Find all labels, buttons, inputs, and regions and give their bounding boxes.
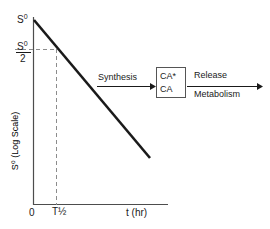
metabolism-label: Metabolism [194, 90, 240, 99]
y-tick-s0-half-superscript: 0 [24, 40, 28, 47]
ca-ground-label: CA [160, 85, 173, 94]
y-tick-s0-half-base: S [17, 41, 24, 52]
release-label: Release [194, 71, 227, 80]
synthesis-label: Synthesis [98, 73, 137, 82]
figure-vector-layer [0, 0, 270, 229]
x-tick-label-origin: 0 [29, 208, 35, 218]
y-axis-title: S⁰ (Log Scale) [10, 98, 20, 184]
x-tick-label-half-life: T½ [52, 207, 66, 217]
y-tick-s0-base: S [17, 14, 24, 25]
x-axis-title: t (hr) [126, 208, 147, 218]
ca-excited-label: CA* [160, 72, 176, 81]
y-tick-label-s0: S0 [17, 13, 28, 25]
y-tick-label-s0-half-numerator: S0 [17, 40, 28, 52]
y-tick-s0-superscript: 0 [24, 13, 28, 20]
figure-canvas: S0 S0 2 S⁰ (Log Scale) 0 T½ t (hr) Synth… [0, 0, 270, 229]
output-arrow-head [257, 83, 263, 90]
y-tick-label-s0-half-denominator: 2 [20, 54, 26, 64]
decay-line [34, 20, 150, 158]
